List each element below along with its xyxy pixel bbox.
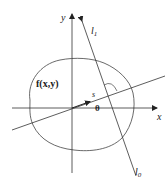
projection-line [82,21,136,176]
y-axis-label: y [60,12,66,23]
theta-label: θ [95,103,100,113]
radon-projection-diagram: y x f(x,y) s θ l1 l0 [0,0,168,187]
rotated-axis [12,76,165,130]
line-l0-label: l0 [135,166,142,179]
x-axis-label: x [156,111,162,122]
s-arrow [72,102,90,108]
s-label: s [92,90,95,99]
line-l1-label: l1 [91,25,97,38]
function-label: f(x,y) [36,78,59,90]
